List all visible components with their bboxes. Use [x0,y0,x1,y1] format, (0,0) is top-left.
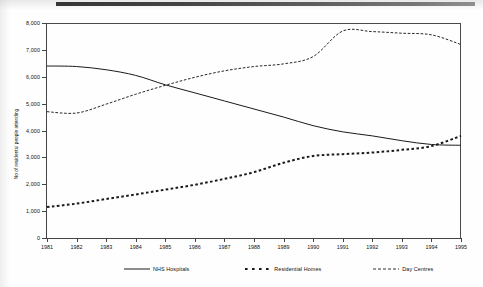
figure-container: No of residents/ people attending 01,000… [0,0,483,287]
legend-item-residential-homes: Residential Homes [245,265,321,273]
scan-artifact-bar [56,2,475,6]
legend-item-day-centres: Day Centres [373,265,433,273]
x-tick-mark [195,238,196,242]
series-line-nhs-hospitals [47,66,461,145]
x-tick-label: 1987 [218,244,230,250]
x-tick-label: 1990 [307,244,319,250]
x-tick-label: 1986 [189,244,201,250]
x-tick-label: 1993 [396,244,408,250]
x-tick-label: 1984 [130,244,142,250]
x-tick-mark [136,238,137,242]
y-tick-label: 7,000 [26,47,40,53]
y-tick-label: 6,000 [26,74,40,80]
x-tick-mark [461,238,462,242]
y-tick-label: 1,000 [26,208,40,214]
y-tick-label: 8,000 [26,20,40,26]
series-line-day-centres [47,29,461,113]
legend-label-nhs-hospitals: NHS Hospitals [153,266,189,272]
x-tick-mark [343,238,344,242]
y-tick-label: 0 [37,235,40,241]
x-tick-mark [284,238,285,242]
x-tick-mark [77,238,78,242]
x-tick-label: 1989 [278,244,290,250]
chart-legend: NHS Hospitals Residential Homes Day Cent… [46,262,460,276]
y-tick-label: 5,000 [26,101,40,107]
y-tick-label: 3,000 [26,154,40,160]
x-tick-label: 1991 [337,244,349,250]
x-tick-label: 1988 [248,244,260,250]
x-tick-mark [372,238,373,242]
legend-swatch-solid [124,265,150,273]
plot-area: 01,0002,0003,0004,0005,0006,0007,0008,00… [46,23,461,239]
legend-swatch-thick-dashed [245,265,271,273]
x-tick-mark [165,238,166,242]
y-tick-label: 2,000 [26,181,40,187]
x-tick-label: 1981 [41,244,53,250]
x-tick-mark [313,238,314,242]
y-tick-label: 4,000 [26,128,40,134]
series-line-residential-homes [47,136,461,207]
x-tick-label: 1982 [71,244,83,250]
x-tick-label: 1992 [366,244,378,250]
x-tick-label: 1994 [425,244,437,250]
x-tick-mark [106,238,107,242]
x-tick-label: 1995 [455,244,467,250]
legend-swatch-fine-dashed [373,265,399,273]
x-tick-mark [431,238,432,242]
x-tick-label: 1985 [159,244,171,250]
legend-item-nhs-hospitals: NHS Hospitals [124,265,189,273]
x-tick-mark [47,238,48,242]
x-tick-label: 1983 [100,244,112,250]
scan-edge-shadow [0,0,10,287]
legend-label-day-centres: Day Centres [402,266,433,272]
series-lines [47,23,461,238]
legend-label-residential-homes: Residential Homes [274,266,321,272]
x-tick-mark [402,238,403,242]
x-tick-mark [254,238,255,242]
y-axis-title: No of residents/ people attending [14,108,19,178]
x-tick-mark [224,238,225,242]
